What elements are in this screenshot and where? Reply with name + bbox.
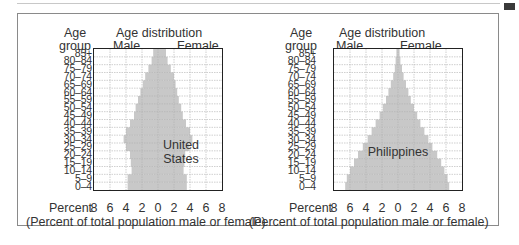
x-tick: 6 [441, 201, 451, 215]
pyramid-bar [380, 112, 418, 120]
philippines-pyramid-panel: Age group Age distribution Male Female 8… [258, 13, 499, 226]
x-tick: 4 [121, 201, 131, 215]
percent-prefix: Percent [289, 201, 332, 215]
x-tick: 4 [361, 201, 371, 215]
percent-prefix: Percent [49, 201, 92, 215]
x-tick: 0 [153, 201, 163, 215]
country-label: Philippines [348, 145, 448, 159]
x-tick: 2 [169, 201, 179, 215]
pyramid-bar [145, 73, 174, 81]
pyramid-bar [128, 182, 187, 190]
us-plot-area [93, 48, 223, 191]
pyramid-bar [153, 49, 166, 57]
pyramid-bar [391, 80, 406, 88]
x-tick: 2 [137, 201, 147, 215]
us-pyramid-bars [94, 49, 222, 190]
country-label-line1: United [141, 138, 221, 152]
x-tick: 2 [377, 201, 387, 215]
x-tick: 8 [89, 201, 99, 215]
philippines-plot-area [333, 48, 463, 191]
pyramid-bar [128, 174, 187, 182]
corner-marker [504, 3, 515, 10]
x-tick: 2 [409, 201, 419, 215]
pyramid-bar [143, 80, 176, 88]
pyramid-bar [134, 112, 183, 120]
x-axis-label: (Percent of total population male or fem… [26, 215, 266, 229]
pyramid-bar [393, 73, 403, 81]
x-tick-labels: 8 6 4 2 0 2 4 6 8 [94, 201, 222, 215]
x-tick: 8 [457, 201, 467, 215]
country-label-line1: Philippines [348, 145, 448, 159]
x-tick: 4 [425, 201, 435, 215]
x-tick: 0 [393, 201, 403, 215]
pyramid-bar [345, 182, 449, 190]
pyramid-bar [354, 159, 441, 167]
pyramid-bar [386, 96, 411, 104]
x-tick: 8 [217, 201, 227, 215]
philippines-pyramid-bars [334, 49, 462, 190]
x-tick: 4 [185, 201, 195, 215]
pyramid-bar [130, 120, 186, 128]
top-divider [17, 3, 500, 4]
pyramid-bar [347, 174, 448, 182]
x-tick: 6 [345, 201, 355, 215]
pyramid-bar [152, 57, 168, 65]
age-label: 0–4 [258, 183, 316, 191]
x-tick: 6 [105, 201, 115, 215]
pyramid-bar [138, 96, 179, 104]
pyramid-bar [148, 65, 170, 73]
pyramid-bar [388, 88, 408, 96]
pyramid-bar [395, 65, 402, 73]
pyramid-bar [140, 88, 177, 96]
pyramid-bar [396, 57, 401, 65]
pyramid-bar [132, 167, 184, 175]
age-axis-labels: 85+ 80–84 75–79 70–74 65–69 60–64 55–59 … [258, 50, 316, 191]
country-label-line2: States [141, 152, 221, 166]
age-label: 0–4 [34, 183, 92, 191]
age-axis-labels: 85+ 80–84 75–79 70–74 65–69 60–64 55–59 … [34, 50, 92, 191]
pyramid-bar [376, 120, 421, 128]
country-label: United States [141, 138, 221, 166]
x-axis-label: (Percent of total population male or fem… [249, 215, 489, 229]
x-tick-labels: 8 6 4 2 0 2 4 6 8 [334, 201, 462, 215]
pyramid-bar [383, 104, 414, 112]
x-tick: 8 [329, 201, 339, 215]
x-tick: 6 [201, 201, 211, 215]
pyramid-bar [136, 104, 182, 112]
us-pyramid-panel: Age group Age distribution Male Female 8… [17, 13, 258, 226]
